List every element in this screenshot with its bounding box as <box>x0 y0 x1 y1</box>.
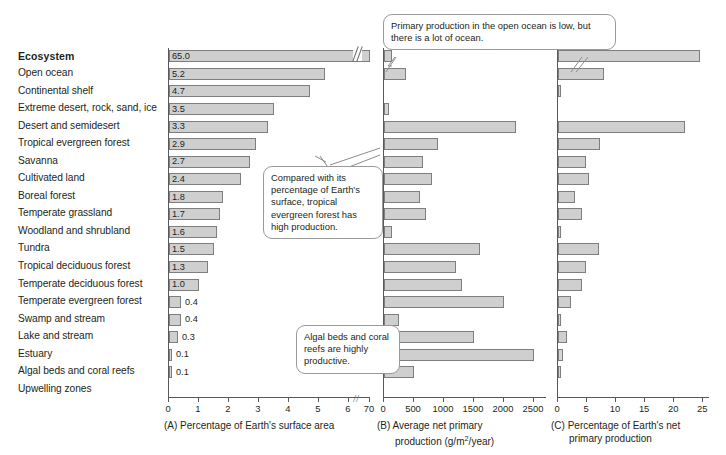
figure-root: Ecosystem Open ocean Continental shelf E… <box>0 0 726 455</box>
callout-algal-beds: Algal beds and coral reefs are highly pr… <box>296 325 400 374</box>
callout-open-ocean: Primary production in the open ocean is … <box>383 14 616 50</box>
callout-tropical-evergreen: Compared with its percentage of Earth's … <box>263 166 383 239</box>
